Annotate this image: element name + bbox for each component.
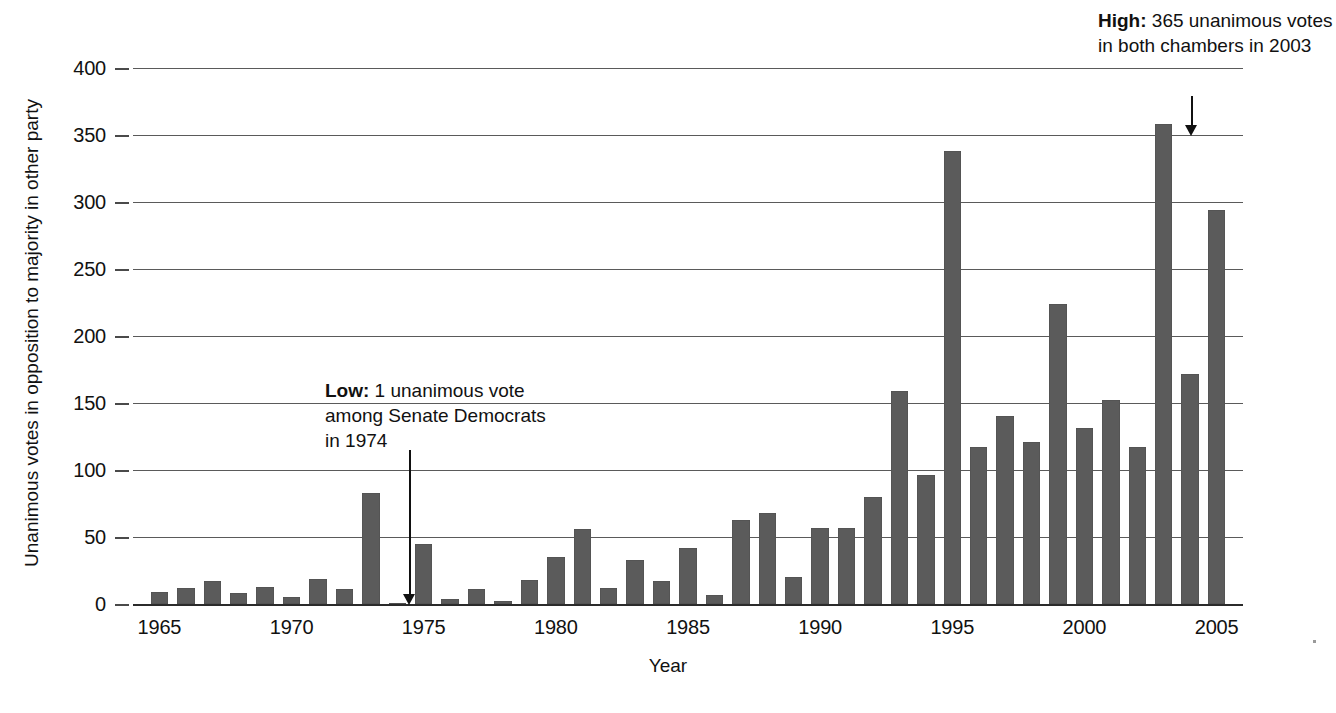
bar-chart-figure: 050100150200250300350400 Unanimous votes…: [0, 0, 1336, 713]
y-tick-mark-300: [115, 202, 129, 204]
page-speck: [1313, 640, 1316, 643]
x-tick-label-1990: 1990: [780, 616, 860, 639]
bar-2001: [1102, 400, 1119, 604]
y-tick-mark-400: [115, 68, 129, 70]
bar-1995: [944, 151, 961, 604]
bar-1998: [1023, 442, 1040, 604]
bar-1987: [732, 520, 749, 604]
annotation-low: Low: 1 unanimous vote among Senate Democ…: [325, 378, 555, 453]
bar-1990: [811, 528, 828, 604]
bar-1980: [547, 557, 564, 604]
bar-1967: [204, 581, 221, 604]
gridline-0: [133, 604, 1243, 606]
bar-1994: [917, 475, 934, 604]
y-tick-mark-250: [115, 269, 129, 271]
x-axis-title: Year: [0, 655, 1336, 677]
bar-1965: [151, 592, 168, 604]
x-tick-label-1965: 1965: [119, 616, 199, 639]
bar-1992: [864, 497, 881, 604]
bar-1997: [996, 416, 1013, 604]
bar-series: [133, 68, 1243, 604]
bar-2000: [1076, 428, 1093, 604]
annotation-high-label: High:: [1098, 10, 1147, 31]
x-tick-label-1970: 1970: [252, 616, 332, 639]
x-tick-label-1975: 1975: [384, 616, 464, 639]
y-axis-title: Unanimous votes in opposition to majorit…: [21, 73, 43, 593]
y-tick-mark-100: [115, 470, 129, 472]
y-tick-label-0: 0: [20, 594, 106, 614]
bar-1996: [970, 447, 987, 604]
bar-1971: [309, 579, 326, 604]
bar-1988: [759, 513, 776, 604]
bar-1978: [494, 601, 511, 604]
bar-1970: [283, 597, 300, 604]
x-tick-label-1995: 1995: [912, 616, 992, 639]
bar-1982: [600, 588, 617, 604]
bar-1973: [362, 493, 379, 604]
y-tick-mark-200: [115, 336, 129, 338]
x-axis-labels: 196519701975198019851990199520002005: [133, 608, 1243, 648]
bar-1989: [785, 577, 802, 604]
bar-2002: [1129, 447, 1146, 604]
bar-1975: [415, 544, 432, 604]
x-tick-label-2000: 2000: [1044, 616, 1124, 639]
y-tick-mark-50: [115, 537, 129, 539]
y-tick-mark-350: [115, 135, 129, 137]
bar-2004: [1181, 374, 1198, 604]
bar-1968: [230, 593, 247, 604]
annotation-high-arrow-icon: [1185, 96, 1198, 136]
x-tick-label-1985: 1985: [648, 616, 728, 639]
y-axis-labels: 050100150200250300350400: [0, 0, 133, 713]
bar-2003: [1155, 124, 1172, 604]
bar-1984: [653, 581, 670, 604]
bar-1979: [521, 580, 538, 604]
bar-1981: [574, 529, 591, 604]
bar-1966: [177, 588, 194, 604]
bar-1991: [838, 528, 855, 604]
annotation-low-arrow-icon: [403, 450, 416, 605]
y-tick-mark-150: [115, 403, 129, 405]
x-tick-label-2005: 2005: [1177, 616, 1257, 639]
bar-1977: [468, 589, 485, 604]
bar-1999: [1049, 304, 1066, 604]
plot-area: [133, 68, 1243, 604]
bar-1985: [679, 548, 696, 604]
bar-1972: [336, 589, 353, 604]
bar-2005: [1208, 210, 1225, 604]
bar-1983: [626, 560, 643, 604]
annotation-high: High: 365 unanimous votes in both chambe…: [1098, 8, 1336, 58]
bar-1986: [706, 595, 723, 604]
x-tick-label-1980: 1980: [516, 616, 596, 639]
bar-1969: [256, 587, 273, 604]
bar-1993: [891, 391, 908, 604]
y-tick-mark-0: [115, 604, 129, 606]
bar-1976: [441, 599, 458, 604]
annotation-low-label: Low:: [325, 380, 369, 401]
